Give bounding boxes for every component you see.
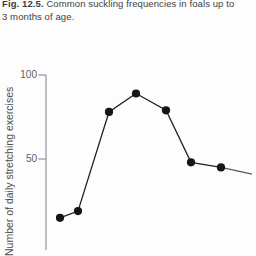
data-point <box>56 214 64 222</box>
data-point <box>217 163 225 171</box>
data-line-trail <box>221 167 252 174</box>
data-line <box>60 93 221 217</box>
data-point <box>162 106 170 114</box>
data-point <box>187 158 195 166</box>
data-point <box>105 108 113 116</box>
data-point <box>74 207 82 215</box>
data-point <box>132 89 140 97</box>
